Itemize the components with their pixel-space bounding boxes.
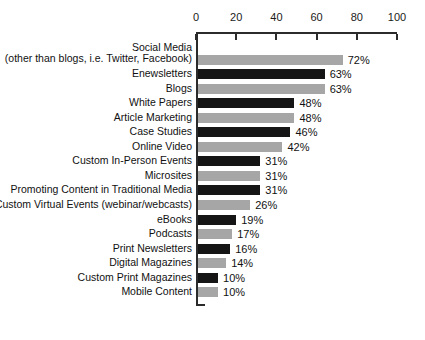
bar-row[interactable]: Podcasts17% (0, 227, 425, 242)
bar[interactable] (198, 142, 282, 152)
bar[interactable] (198, 127, 290, 137)
bar-value-label: 17% (237, 228, 259, 240)
x-tick-40 (275, 34, 277, 40)
bar-row-label: Print Newsletters (0, 243, 192, 255)
bar-value-label: 31% (265, 184, 287, 196)
x-tick-label-0: 0 (181, 11, 211, 23)
x-axis-line (196, 32, 397, 34)
bar[interactable] (198, 55, 343, 65)
bar-row[interactable]: White Papers48% (0, 96, 425, 111)
bar[interactable] (198, 229, 232, 239)
bar[interactable] (198, 215, 236, 225)
bar-row-label: White Papers (0, 97, 192, 109)
x-tick-label-40: 40 (261, 11, 291, 23)
bar[interactable] (198, 244, 230, 254)
x-tick-100 (396, 34, 398, 40)
bar-value-label: 14% (231, 257, 253, 269)
bar-row-label: Custom Virtual Events (webinar/webcasts) (0, 199, 192, 211)
bar[interactable] (198, 171, 260, 181)
bar-row[interactable]: Enewsletters63% (0, 67, 425, 82)
bar-row[interactable]: Custom In-Person Events31% (0, 154, 425, 169)
bar-row-label: Custom In-Person Events (0, 155, 192, 167)
bar-row-label: Online Video (0, 141, 192, 153)
bar-row[interactable]: eBooks19% (0, 213, 425, 228)
bar-row[interactable]: Print Newsletters16% (0, 242, 425, 257)
bar-row[interactable]: Mobile Content10% (0, 285, 425, 300)
bar-value-label: 10% (223, 286, 245, 298)
plot-area: 020406080100 Social Media(other than blo… (0, 0, 425, 340)
bar-value-label: 19% (241, 214, 263, 226)
bar-row[interactable]: Online Video42% (0, 140, 425, 155)
bar-row[interactable]: Social Media(other than blogs, i.e. Twit… (0, 53, 425, 68)
bar-value-label: 42% (287, 141, 309, 153)
x-tick-0 (195, 34, 197, 40)
x-tick-80 (356, 34, 358, 40)
bar-row-label: Digital Magazines (0, 257, 192, 269)
bar-value-label: 48% (299, 112, 321, 124)
x-tick-label-100: 100 (382, 11, 412, 23)
bar-row[interactable]: Promoting Content in Traditional Media31… (0, 183, 425, 198)
bar-value-label: 16% (235, 243, 257, 255)
bar[interactable] (198, 84, 325, 94)
bar[interactable] (198, 98, 294, 108)
bar-row-label: Blogs (0, 83, 192, 95)
bar-row-label: Article Marketing (0, 112, 192, 124)
bar-row[interactable]: Case Studies46% (0, 125, 425, 140)
bar[interactable] (198, 287, 218, 297)
bar-row-label: Enewsletters (0, 68, 192, 80)
bar-row-label: Promoting Content in Traditional Media (0, 184, 192, 196)
bar-value-label: 63% (330, 83, 352, 95)
y-axis-foot (196, 304, 205, 306)
bar-row-label: eBooks (0, 214, 192, 226)
bar-value-label: 26% (255, 199, 277, 211)
bar[interactable] (198, 273, 218, 283)
bar[interactable] (198, 156, 260, 166)
bar-value-label: 63% (330, 68, 352, 80)
bar-row[interactable]: Article Marketing48% (0, 111, 425, 126)
bar-value-label: 10% (223, 272, 245, 284)
bar-value-label: 31% (265, 155, 287, 167)
x-tick-20 (235, 34, 237, 40)
bar-value-label: 31% (265, 170, 287, 182)
x-tick-label-80: 80 (342, 11, 372, 23)
bar-row-label: Custom Print Magazines (0, 272, 192, 284)
bar-row-label: Case Studies (0, 126, 192, 138)
bar-row-label: Podcasts (0, 228, 192, 240)
bar[interactable] (198, 258, 226, 268)
bar-row-label-line2: (other than blogs, i.e. Twitter, Faceboo… (0, 53, 192, 65)
bar[interactable] (198, 69, 325, 79)
bar-value-label: 46% (295, 126, 317, 138)
bar[interactable] (198, 185, 260, 195)
x-tick-label-60: 60 (302, 11, 332, 23)
bar-row-label: Microsites (0, 170, 192, 182)
bar[interactable] (198, 113, 294, 123)
bar-row-label: Social Media(other than blogs, i.e. Twit… (0, 42, 192, 65)
bar[interactable] (198, 200, 250, 210)
bar-row[interactable]: Custom Print Magazines10% (0, 271, 425, 286)
bar-row[interactable]: Blogs63% (0, 82, 425, 97)
bar-row[interactable]: Microsites31% (0, 169, 425, 184)
x-tick-label-20: 20 (221, 11, 251, 23)
bar-value-label: 48% (299, 97, 321, 109)
bar-value-label: 72% (348, 54, 370, 66)
bar-chart: 020406080100 Social Media(other than blo… (0, 0, 425, 340)
bar-row[interactable]: Digital Magazines14% (0, 256, 425, 271)
bar-row-label: Mobile Content (0, 286, 192, 298)
x-tick-60 (316, 34, 318, 40)
bar-row[interactable]: Custom Virtual Events (webinar/webcasts)… (0, 198, 425, 213)
